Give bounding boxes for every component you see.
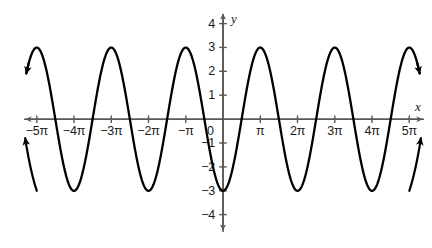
y-tick-label-1: 1: [203, 89, 215, 102]
y-tick-label-2: 2: [203, 65, 215, 78]
x-tick-label-neg5pi: −5π: [26, 125, 48, 138]
curve-path-right-branch: [409, 138, 421, 191]
y-tick-label-neg2: −2: [195, 161, 215, 174]
x-tick-label-pi: π: [256, 125, 264, 138]
y-tick-label-4: 4: [203, 17, 215, 30]
y-axis: [219, 14, 227, 232]
y-tick-label-neg1: −1: [195, 137, 215, 150]
x-tick-label-negpi: −π: [178, 125, 194, 138]
x-axis-label: x: [415, 100, 421, 113]
x-tick-label-neg2pi: −2π: [137, 125, 159, 138]
y-tick-label-neg4: −4: [195, 208, 215, 221]
x-tick-label-5pi: 5π: [402, 125, 417, 138]
curve-path-left-branch: [25, 138, 37, 191]
y-axis-label: y: [231, 12, 237, 25]
x-tick-label-2pi: 2π: [290, 125, 305, 138]
x-tick-label-neg3pi: −3π: [100, 125, 122, 138]
y-tick-label-neg3: −3: [195, 185, 215, 198]
x-tick-label-4pi: 4π: [364, 125, 379, 138]
y-tick-label-3: 3: [203, 41, 215, 54]
x-axis: [24, 115, 424, 123]
graph-figure: −5π −4π −3π −2π −π 0 π 2π 3π 4π 5π 4 3 2…: [0, 0, 432, 248]
curve-arrow-right: [417, 63, 420, 74]
x-tick-label-3pi: 3π: [327, 125, 342, 138]
x-tick-label-neg4pi: −4π: [63, 125, 85, 138]
curve-arrow-left: [26, 63, 29, 74]
